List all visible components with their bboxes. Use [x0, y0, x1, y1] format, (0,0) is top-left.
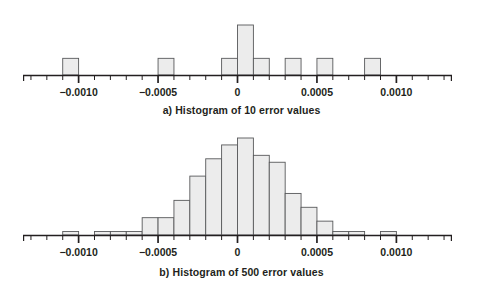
x-axis-tick-labels: −0.0010−0.000500.00050.0010	[59, 86, 412, 98]
x-axis-tick-label: −0.0005	[139, 246, 177, 258]
histogram-bar	[222, 58, 238, 75]
histogram-bar	[190, 176, 206, 235]
histogram-bar	[222, 145, 238, 235]
histogram-bar	[95, 232, 111, 235]
x-axis-tick-label: −0.0010	[59, 86, 97, 98]
x-axis-tick-label: 0	[235, 246, 241, 258]
histogram-figure: −0.0010−0.000500.00050.0010 a) Histogram…	[0, 0, 483, 291]
histogram-10-plot: −0.0010−0.000500.00050.0010	[0, 0, 483, 100]
x-axis-tick-label: 0.0010	[380, 86, 412, 98]
histogram-bar	[317, 221, 333, 235]
histogram-bar	[238, 138, 254, 235]
histogram-bars	[63, 138, 397, 235]
histogram-500-plot: −0.0010−0.000500.00050.0010	[0, 125, 483, 265]
x-axis-tick-label: −0.0010	[59, 246, 97, 258]
histogram-bar	[110, 232, 126, 235]
histogram-bar	[63, 58, 79, 75]
caption-histogram-500: b) Histogram of 500 error values	[0, 266, 483, 278]
x-axis-tick-label: 0.0005	[301, 246, 333, 258]
histogram-bar	[269, 162, 285, 235]
histogram-bar	[63, 232, 79, 235]
histogram-bar	[253, 58, 269, 75]
histogram-bar	[333, 232, 349, 235]
histogram-bar	[285, 193, 301, 235]
x-axis-tick-label: −0.0005	[139, 86, 177, 98]
histogram-bar	[126, 232, 142, 235]
x-axis-tick-labels: −0.0010−0.000500.00050.0010	[59, 246, 412, 258]
histogram-bar	[158, 58, 174, 75]
x-axis-tick-label: 0.0010	[380, 246, 412, 258]
histogram-bar	[174, 200, 190, 235]
histogram-bar	[365, 58, 381, 75]
histogram-bar	[142, 218, 158, 235]
caption-histogram-10: a) Histogram of 10 error values	[0, 104, 483, 116]
histogram-bar	[206, 159, 222, 235]
histogram-bar	[349, 232, 365, 235]
histogram-bar	[238, 25, 254, 75]
histogram-bar	[381, 232, 397, 235]
histogram-bars	[63, 25, 381, 75]
histogram-bar	[317, 58, 333, 75]
x-axis-tick-label: 0	[235, 86, 241, 98]
histogram-bar	[285, 58, 301, 75]
histogram-bar	[158, 218, 174, 235]
histogram-bar	[301, 207, 317, 235]
histogram-bar	[253, 155, 269, 235]
x-axis-tick-label: 0.0005	[301, 86, 333, 98]
